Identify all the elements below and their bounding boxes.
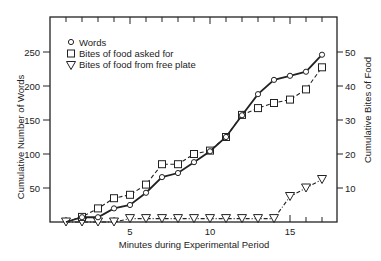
square-marker-icon xyxy=(111,195,118,202)
legend-words: Words xyxy=(79,37,107,48)
triangle-marker-icon xyxy=(302,184,311,192)
circle-marker-icon xyxy=(95,215,100,220)
square-marker-icon xyxy=(95,205,102,212)
y-axis-label: Cumulative Number of Words xyxy=(15,75,26,200)
circle-marker-icon xyxy=(191,160,196,165)
circle-marker-icon xyxy=(223,134,228,139)
y2-tick-label: 30 xyxy=(345,115,356,126)
triangle-marker-icon xyxy=(318,176,327,184)
y-tick-label: 50 xyxy=(29,183,40,194)
y-tick-label: 250 xyxy=(24,47,40,58)
legend-asked: Bites of food asked for xyxy=(79,48,174,59)
y-tick-label: 100 xyxy=(24,149,40,160)
y-tick-label: 150 xyxy=(24,115,40,126)
series-circle xyxy=(66,52,325,222)
square-marker-icon xyxy=(287,96,294,103)
circle-marker-icon xyxy=(271,77,276,82)
circle-marker-icon xyxy=(287,73,292,78)
square-marker-icon xyxy=(191,151,198,158)
circle-marker-icon xyxy=(255,92,260,97)
square-marker-icon xyxy=(255,105,262,112)
square-marker-icon xyxy=(319,64,326,71)
chart: 51015501001502002501020304050 Words Bite… xyxy=(0,0,381,261)
circle-marker-icon xyxy=(239,113,244,118)
circle-marker-icon xyxy=(111,206,116,211)
square-marker-icon xyxy=(175,161,182,168)
legend: Words Bites of food asked for Bites of f… xyxy=(67,37,196,70)
legend-square-icon xyxy=(68,50,75,57)
y2-tick-label: 50 xyxy=(345,47,356,58)
x-axis-label: Minutes during Experimental Period xyxy=(119,239,270,250)
triangle-marker-icon xyxy=(286,193,295,201)
y2-tick-label: 10 xyxy=(345,183,356,194)
chart-svg: 51015501001502002501020304050 Words Bite… xyxy=(0,0,381,261)
circle-marker-icon xyxy=(319,52,324,57)
square-marker-icon xyxy=(159,161,166,168)
circle-marker-icon xyxy=(207,149,212,154)
series-square xyxy=(66,64,326,222)
y-tick-label: 200 xyxy=(24,81,40,92)
circle-marker-icon xyxy=(127,202,132,207)
series-line xyxy=(66,55,322,222)
x-tick-label: 5 xyxy=(127,226,132,237)
x-tick-label: 10 xyxy=(205,226,216,237)
legend-circle-icon xyxy=(68,39,73,44)
square-marker-icon xyxy=(271,100,278,107)
square-marker-icon xyxy=(303,86,310,93)
y2-tick-label: 40 xyxy=(345,81,356,92)
square-marker-icon xyxy=(127,191,134,198)
series-layer xyxy=(62,52,327,226)
y2-axis-label: Cumulative Bites of Food xyxy=(362,57,373,163)
legend-free: Bites of food from free plate xyxy=(79,59,196,70)
circle-marker-icon xyxy=(143,190,148,195)
y2-tick-label: 20 xyxy=(345,149,356,160)
circle-marker-icon xyxy=(175,170,180,175)
x-tick-label: 15 xyxy=(285,226,296,237)
legend-triangle-icon xyxy=(67,62,76,70)
circle-marker-icon xyxy=(159,175,164,180)
square-marker-icon xyxy=(143,181,150,188)
circle-marker-icon xyxy=(79,215,84,220)
circle-marker-icon xyxy=(303,69,308,74)
series-triangle-down xyxy=(62,176,327,227)
series-line xyxy=(66,67,322,222)
